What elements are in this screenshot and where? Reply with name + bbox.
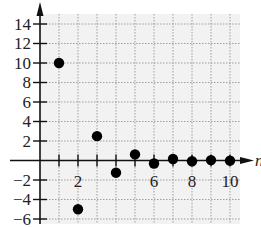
y-tick-label: −2 [13, 171, 31, 190]
data-point [206, 155, 216, 165]
y-tick-label: 14 [14, 15, 32, 34]
y-tick-label: 8 [23, 73, 32, 92]
y-tick-label: −6 [13, 210, 31, 227]
y-tick-label: 12 [14, 34, 31, 53]
x-axis-label: n [255, 151, 261, 170]
data-point [168, 154, 178, 164]
data-point [111, 167, 121, 177]
data-point [225, 155, 235, 165]
data-point [187, 156, 197, 166]
data-point [130, 149, 140, 159]
x-tick-label: 8 [188, 172, 197, 191]
y-axis-arrow-icon [37, 2, 44, 16]
x-tick-label: 2 [74, 172, 83, 191]
y-tick-label: −4 [13, 190, 32, 209]
sequence-scatter-chart: −6−4−2246810121426810n [0, 0, 261, 226]
x-tick-label: 10 [222, 172, 239, 191]
x-axis-arrow-icon [240, 157, 254, 164]
data-point [149, 158, 159, 168]
y-tick-label: 4 [23, 112, 32, 131]
data-point [73, 204, 83, 214]
y-tick-label: 2 [23, 132, 32, 151]
x-tick-label: 6 [150, 172, 159, 191]
data-point [92, 131, 102, 141]
y-tick-label: 10 [14, 54, 31, 73]
data-point [54, 58, 64, 68]
y-tick-label: 6 [23, 93, 32, 112]
plot-background [40, 14, 240, 224]
